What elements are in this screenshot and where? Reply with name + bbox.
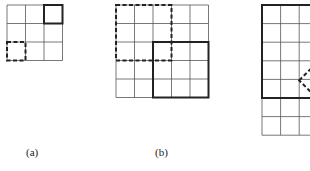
panel-b-grid [116,5,209,98]
panel-c-grid [262,5,310,135]
panel-a-grid [7,5,63,61]
panel-b-label: (b) [155,146,168,158]
solid-window-outline [44,5,63,24]
solid-window-outline [262,5,310,98]
dashed-diamond-outline [299,60,310,100]
solid-window-outline [153,42,209,98]
panel-a-label: (a) [26,146,38,158]
dashed-window-outline [7,42,26,61]
dashed-window-outline [116,5,172,61]
